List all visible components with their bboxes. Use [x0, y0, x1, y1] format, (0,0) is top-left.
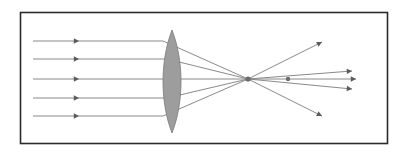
optics-ray-diagram-canvas: Converging lens ray diagram Five paralle… [0, 0, 409, 154]
focal-point-marker [245, 76, 250, 81]
ray-diagram-figure: Converging lens ray diagram Five paralle… [0, 0, 409, 154]
crossing-node-marker [286, 77, 290, 81]
